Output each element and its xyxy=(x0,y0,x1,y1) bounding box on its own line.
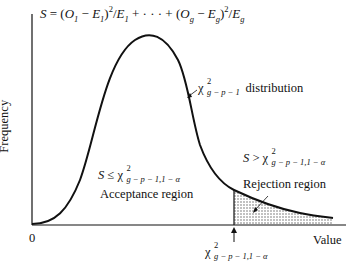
formula-part: O xyxy=(180,6,189,21)
acceptance-region-label: Acceptance region xyxy=(100,188,193,201)
arrow-head-icon xyxy=(231,227,237,233)
formula-part: = ( xyxy=(47,6,65,21)
rejection-region-shading xyxy=(234,190,333,225)
distribution-text: distribution xyxy=(246,81,304,95)
rejection-region-label: Rejection region xyxy=(243,178,326,191)
chi-symbol: χ2g − p − 1,1 − α xyxy=(205,246,211,259)
distribution-label: χ2g − p − 1distribution xyxy=(198,82,303,95)
rejection-condition: S > χ2g − p − 1,1 − α xyxy=(243,152,268,165)
chi-symbol: χ2g − p − 1 xyxy=(198,82,204,95)
chi-sub: g − p − 1,1 − α xyxy=(126,175,180,184)
chi: χ xyxy=(263,151,269,165)
chi-sup: 2 xyxy=(214,241,218,250)
chi-sub: g − p − 1 xyxy=(207,88,240,97)
chi-sub: g − p − 1,1 − α xyxy=(214,252,268,261)
formula-part: E xyxy=(92,6,100,21)
y-axis-label: Frequency xyxy=(0,100,11,153)
chi-square-diagram xyxy=(0,0,346,264)
formula-part: − xyxy=(78,6,92,21)
formula-part: E xyxy=(208,6,216,21)
chi: χ xyxy=(205,245,211,259)
chi-symbol: χ2g − p − 1,1 − α xyxy=(263,152,269,165)
chi: χ xyxy=(117,168,123,182)
formula-sub: g xyxy=(240,14,244,24)
chi-sup: 2 xyxy=(207,77,211,86)
formula-part: − xyxy=(194,6,208,21)
chi-sup: 2 xyxy=(272,147,276,156)
chi-symbol: χ2g − p − 1,1 − α xyxy=(117,169,123,182)
chi-sup: 2 xyxy=(126,164,130,173)
operator: > xyxy=(249,151,262,165)
formula-part: E xyxy=(117,6,125,21)
formula-part: + · · · + ( xyxy=(129,6,180,21)
origin-label: 0 xyxy=(29,232,35,245)
formula-part: E xyxy=(232,6,240,21)
critical-value-label: χ2g − p − 1,1 − α xyxy=(205,246,211,259)
acceptance-condition: S ≤ χ2g − p − 1,1 − α xyxy=(98,169,123,182)
operator: ≤ xyxy=(104,168,117,182)
chi: χ xyxy=(198,81,204,95)
x-axis-label: Value xyxy=(313,234,341,247)
formula-part: O xyxy=(65,6,74,21)
chi-sub: g − p − 1,1 − α xyxy=(272,158,326,167)
test-statistic-formula: S = (O1 − E1)2/E1 + · · · + (Og − Eg)2/E… xyxy=(40,5,244,24)
